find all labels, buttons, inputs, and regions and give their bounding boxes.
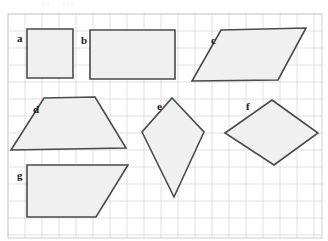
shape-g: g xyxy=(17,165,128,217)
shape-b: b xyxy=(81,30,175,79)
polygon-rectangle xyxy=(90,30,175,79)
quadrilaterals-diagram: abcdefg xyxy=(0,0,328,241)
shape-label-b: b xyxy=(81,34,87,46)
shape-c: c xyxy=(192,28,306,81)
shape-label-e: e xyxy=(157,100,162,112)
cropped-text-remnant xyxy=(43,2,74,6)
polygon-square xyxy=(27,29,73,78)
shape-label-a: a xyxy=(17,32,23,44)
polygon-rhombus xyxy=(225,100,318,165)
polygon-trapezoid xyxy=(11,97,126,150)
shape-label-g: g xyxy=(17,169,23,181)
polygon-parallelogram xyxy=(192,28,306,81)
shape-label-f: f xyxy=(246,100,250,112)
shape-label-d: d xyxy=(33,103,39,115)
polygon-right-trapezoid xyxy=(27,165,128,217)
shape-d: d xyxy=(11,97,126,150)
shape-f: f xyxy=(225,100,318,165)
shapes-group: abcdefg xyxy=(11,28,318,217)
worksheet-figure-canvas: abcdefg xyxy=(0,0,328,241)
shape-label-c: c xyxy=(211,34,216,46)
